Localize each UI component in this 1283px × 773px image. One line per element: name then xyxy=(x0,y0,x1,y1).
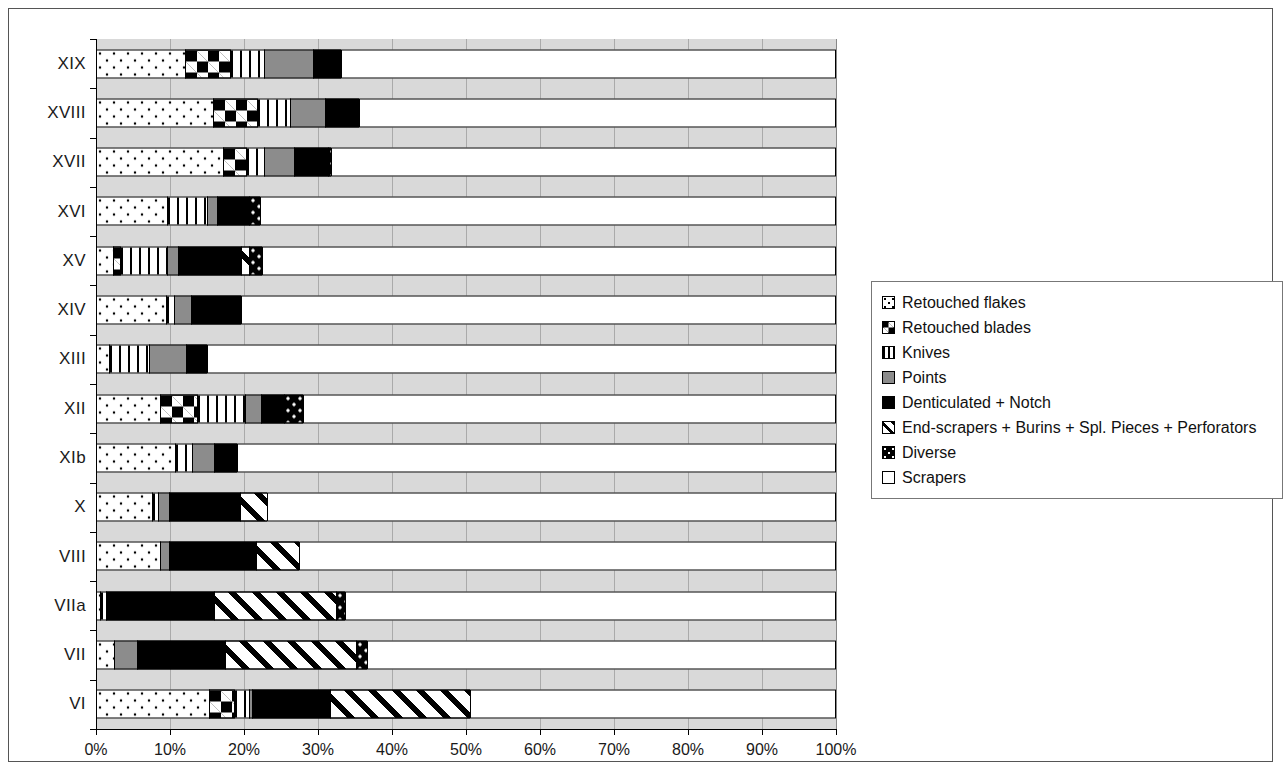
stacked-bar[interactable] xyxy=(96,443,836,472)
bar-segment[interactable] xyxy=(113,246,120,275)
bar-segment[interactable] xyxy=(330,690,471,719)
bar-segment[interactable] xyxy=(160,394,197,423)
bar-segment[interactable] xyxy=(207,197,217,226)
bar-segment[interactable] xyxy=(192,443,214,472)
bar-segment[interactable] xyxy=(290,98,325,127)
bar-segment[interactable] xyxy=(158,493,169,522)
bar-segment[interactable] xyxy=(174,296,190,325)
bar-segment[interactable] xyxy=(261,394,284,423)
stacked-bar[interactable] xyxy=(96,49,836,78)
bar-segment[interactable] xyxy=(185,49,230,78)
bar-segment[interactable] xyxy=(241,296,836,325)
bar-segment[interactable] xyxy=(336,591,344,620)
bar-segment[interactable] xyxy=(167,246,178,275)
stacked-bar[interactable] xyxy=(96,246,836,275)
bar-segment[interactable] xyxy=(96,296,166,325)
bar-segment[interactable] xyxy=(96,148,223,177)
bar-segment[interactable] xyxy=(257,98,290,127)
bar-segment[interactable] xyxy=(470,690,836,719)
bar-segment[interactable] xyxy=(345,591,836,620)
bar-segment[interactable] xyxy=(169,542,256,571)
bar-segment[interactable] xyxy=(245,394,261,423)
bar-segment[interactable] xyxy=(96,197,167,226)
bar-segment[interactable] xyxy=(96,345,109,374)
bar-segment[interactable] xyxy=(234,690,249,719)
bar-segment[interactable] xyxy=(96,246,113,275)
legend-item[interactable]: Scrapers xyxy=(882,465,1274,490)
bar-segment[interactable] xyxy=(237,443,836,472)
bar-segment[interactable] xyxy=(240,493,267,522)
bar-segment[interactable] xyxy=(120,246,167,275)
bar-segment[interactable] xyxy=(225,641,357,670)
bar-segment[interactable] xyxy=(96,542,160,571)
stacked-bar[interactable] xyxy=(96,591,836,620)
bar-segment[interactable] xyxy=(341,49,836,78)
stacked-bar[interactable] xyxy=(96,98,836,127)
stacked-bar[interactable] xyxy=(96,345,836,374)
bar-segment[interactable] xyxy=(109,345,148,374)
bar-segment[interactable] xyxy=(186,345,207,374)
bar-segment[interactable] xyxy=(217,197,249,226)
stacked-bar[interactable] xyxy=(96,641,836,670)
bar-segment[interactable] xyxy=(325,98,360,127)
stacked-bar[interactable] xyxy=(96,542,836,571)
bar-segment[interactable] xyxy=(230,49,264,78)
bar-segment[interactable] xyxy=(241,246,249,275)
bar-segment[interactable] xyxy=(256,542,299,571)
bar-segment[interactable] xyxy=(303,394,836,423)
bar-segment[interactable] xyxy=(160,542,169,571)
bar-segment[interactable] xyxy=(249,197,260,226)
bar-segment[interactable] xyxy=(356,641,366,670)
legend-item[interactable]: Diverse xyxy=(882,440,1274,465)
bar-segment[interactable] xyxy=(246,148,264,177)
legend-item[interactable]: Denticulated + Notch xyxy=(882,390,1274,415)
bar-segment[interactable] xyxy=(249,246,262,275)
bar-segment[interactable] xyxy=(209,690,234,719)
bar-segment[interactable] xyxy=(313,49,341,78)
bar-segment[interactable] xyxy=(214,443,236,472)
bar-segment[interactable] xyxy=(223,148,246,177)
stacked-bar[interactable] xyxy=(96,493,836,522)
bar-segment[interactable] xyxy=(331,148,836,177)
bar-segment[interactable] xyxy=(197,394,245,423)
bar-segment[interactable] xyxy=(284,394,303,423)
legend-item[interactable]: Points xyxy=(882,365,1274,390)
legend-item[interactable]: Retouched blades xyxy=(882,315,1274,340)
legend-item[interactable]: Retouched flakes xyxy=(882,290,1274,315)
bar-segment[interactable] xyxy=(367,641,836,670)
bar-segment[interactable] xyxy=(114,641,137,670)
stacked-bar[interactable] xyxy=(96,394,836,423)
bar-segment[interactable] xyxy=(267,493,836,522)
legend-item[interactable]: End-scrapers + Burins + Spl. Pieces + Pe… xyxy=(882,415,1274,440)
bar-segment[interactable] xyxy=(166,296,174,325)
bar-segment[interactable] xyxy=(214,591,336,620)
bar-segment[interactable] xyxy=(96,443,175,472)
stacked-bar[interactable] xyxy=(96,296,836,325)
bar-segment[interactable] xyxy=(213,98,257,127)
bar-segment[interactable] xyxy=(252,690,330,719)
bar-segment[interactable] xyxy=(96,690,209,719)
bar-segment[interactable] xyxy=(175,443,192,472)
bar-segment[interactable] xyxy=(106,591,214,620)
bar-segment[interactable] xyxy=(96,493,152,522)
legend-item[interactable]: Knives xyxy=(882,340,1274,365)
bar-segment[interactable] xyxy=(100,591,107,620)
bar-segment[interactable] xyxy=(167,197,207,226)
bar-segment[interactable] xyxy=(137,641,225,670)
bar-segment[interactable] xyxy=(96,394,160,423)
stacked-bar[interactable] xyxy=(96,148,836,177)
bar-segment[interactable] xyxy=(178,246,241,275)
bar-segment[interactable] xyxy=(96,98,213,127)
bar-segment[interactable] xyxy=(264,148,294,177)
bar-segment[interactable] xyxy=(299,542,836,571)
bar-segment[interactable] xyxy=(294,148,327,177)
bar-segment[interactable] xyxy=(169,493,240,522)
bar-segment[interactable] xyxy=(191,296,241,325)
bar-segment[interactable] xyxy=(264,49,313,78)
stacked-bar[interactable] xyxy=(96,197,836,226)
bar-segment[interactable] xyxy=(96,641,114,670)
bar-segment[interactable] xyxy=(359,98,836,127)
bar-segment[interactable] xyxy=(96,49,185,78)
bar-segment[interactable] xyxy=(149,345,187,374)
stacked-bar[interactable] xyxy=(96,690,836,719)
